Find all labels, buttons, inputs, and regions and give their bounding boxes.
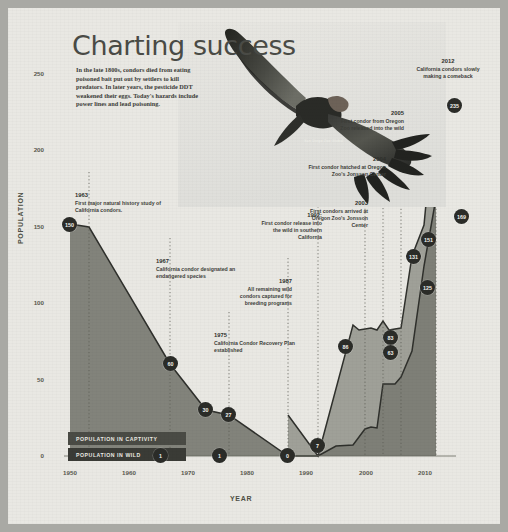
annotation-1975: 1975 California Condor Recovery Plan est… [214,332,298,354]
data-marker-151[interactable]: 151 [421,232,436,247]
annotation-2003-year: 2003 [302,200,368,207]
data-marker-83[interactable]: 83 [383,330,398,345]
annotation-1963-text: First major natural history study of Cal… [75,200,161,213]
x-axis-title: YEAR [230,495,252,502]
data-marker-169[interactable]: 169 [454,209,469,224]
annotation-2004-year: 2004 [304,156,386,163]
y-axis-title: POPULATION [17,192,24,244]
annotation-1987-text: All remaining wild condors captured for … [240,286,292,306]
photo-credit: San Diego Zoo Global [304,139,343,143]
x-tick-1950: 1950 [50,469,90,476]
x-tick-1980: 1980 [227,469,267,476]
x-tick-1960: 1960 [109,469,149,476]
infographic-poster: San Diego Zoo Global Charting success In… [8,8,500,524]
annotation-2003: 2003 First condors arrived at Oregon Zoo… [302,200,368,229]
annotation-1967: 1967 California condor designated an end… [156,258,248,280]
annotation-2005-text: First condor from Oregon Zoo released in… [340,118,404,131]
y-tick-0: 0 [20,452,44,459]
data-marker-63[interactable]: 63 [383,345,398,360]
x-tick-1970: 1970 [168,469,208,476]
data-marker-30[interactable]: 30 [198,402,213,417]
annotation-1987: 1987 All remaining wild condors captured… [226,278,292,307]
annotation-2005: 2005 First condor from Oregon Zoo releas… [338,110,404,132]
legend-label-wild: POPULATION IN WILD [76,452,141,458]
data-marker-60[interactable]: 60 [163,356,178,371]
annotation-1967-text: California condor designated an endanger… [156,266,235,279]
annotation-1967-year: 1967 [156,258,248,265]
data-marker-27[interactable]: 27 [221,407,236,422]
legend-item-wild[interactable]: POPULATION IN WILD [68,448,186,461]
annotation-1963: 1963 First major natural history study o… [75,192,161,214]
y-tick-50: 50 [20,376,44,383]
data-marker-86[interactable]: 86 [338,339,353,354]
annotation-1975-text: California Condor Recovery Plan establis… [214,340,295,353]
annotation-2005-year: 2005 [338,110,404,117]
x-tick-2010: 2010 [405,469,445,476]
legend-item-captivity[interactable]: POPULATION IN CAPTIVITY [68,432,186,445]
annotation-2012: 2012 California condors slowly making a … [414,58,482,80]
intro-paragraph: In the late 1800s, condors died from eat… [76,66,206,109]
annotation-2012-year: 2012 [414,58,482,65]
annotation-1963-year: 1963 [75,192,161,199]
x-tick-1990: 1990 [286,469,326,476]
data-marker-7[interactable]: 7 [310,438,325,453]
chart-legend: POPULATION IN CAPTIVITY POPULATION IN WI… [68,432,186,464]
annotation-1975-year: 1975 [214,332,298,339]
data-marker-0[interactable]: 0 [280,448,295,463]
data-marker-125[interactable]: 125 [420,280,435,295]
page-title: Charting success [72,30,296,61]
data-marker-150[interactable]: 150 [62,217,77,232]
y-tick-100: 100 [20,299,44,306]
x-tick-2000: 2000 [346,469,386,476]
data-marker-1-a[interactable]: 1 [153,448,168,463]
annotation-2012-text: California condors slowly making a comeb… [416,66,479,79]
annotation-2004-text: First condor hatched at Oregon Zoo's Jon… [308,164,386,177]
y-tick-200: 200 [20,146,44,153]
data-marker-131[interactable]: 131 [406,249,421,264]
annotation-2004: 2004 First condor hatched at Oregon Zoo'… [304,156,386,178]
data-marker-1-b[interactable]: 1 [212,448,227,463]
legend-label-captivity: POPULATION IN CAPTIVITY [76,436,157,442]
data-marker-235[interactable]: 235 [447,98,462,113]
annotation-2003-text: First condors arrived at Oregon Zoo's Jo… [310,208,368,228]
y-tick-250: 250 [20,70,44,77]
annotation-1987-year: 1987 [226,278,292,285]
